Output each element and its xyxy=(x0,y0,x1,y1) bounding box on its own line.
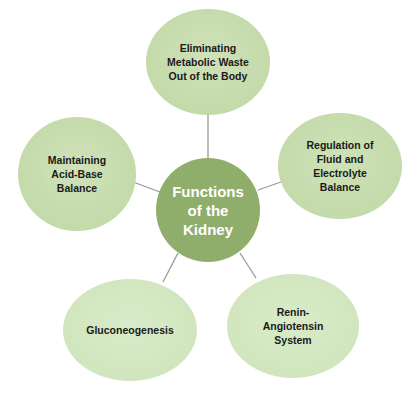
node-label-right: Regulation of Fluid and Electrolyte Bala… xyxy=(282,116,398,216)
center-label: Functions of the Kidney xyxy=(158,158,258,262)
node-label-bottom-right: Renin- Angiotensin System xyxy=(232,280,354,372)
connector-right xyxy=(258,182,281,190)
node-label-top: Eliminating Metabolic Waste Out of the B… xyxy=(148,12,268,112)
node-label-left: Maintaining Acid-Base Balance xyxy=(20,120,134,228)
connector-left xyxy=(133,182,160,192)
node-label-bottom-left: Gluconeogenesis xyxy=(66,282,194,378)
